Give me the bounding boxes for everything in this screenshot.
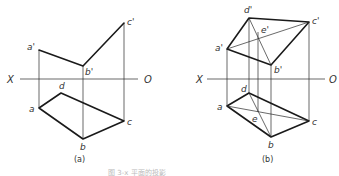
- figure-caption: 图 3-x 平面的投影: [108, 168, 166, 176]
- projection-diagram: X O a' b' c' a d c b (a) X O: [0, 0, 339, 176]
- label-a-prime: a': [27, 42, 35, 52]
- label-a: a: [29, 104, 35, 114]
- panel-b: X O d' c' e' a' b' d a e c b (b): [195, 5, 337, 164]
- axis-label-x-a: X: [6, 74, 15, 85]
- axis-label-o-b: O: [329, 74, 337, 85]
- label-d-b: d: [241, 84, 247, 94]
- front-view-edges-a: [39, 23, 124, 66]
- label-d-prime-b: d': [244, 5, 252, 15]
- label-e-prime-b: e': [261, 25, 269, 35]
- caption-a: (a): [74, 155, 85, 164]
- label-c: c: [127, 117, 132, 127]
- top-view-quad-a: [39, 93, 124, 139]
- label-c-prime-b: c': [312, 16, 319, 26]
- label-b-b: b: [268, 140, 274, 150]
- label-b: b: [80, 142, 86, 152]
- panel-a: X O a' b' c' a d c b (a): [6, 17, 152, 164]
- label-c-b: c: [312, 117, 317, 127]
- label-b-prime: b': [85, 67, 93, 77]
- top-diagonal-ac: [227, 106, 309, 121]
- label-a-prime-b: a': [215, 43, 223, 53]
- label-a-b: a: [217, 102, 223, 112]
- label-d: d: [59, 81, 65, 91]
- axis-label-x-b: X: [195, 74, 204, 85]
- axis-label-o-a: O: [144, 74, 152, 85]
- label-e-b: e: [252, 114, 258, 124]
- label-c-prime: c': [127, 17, 134, 27]
- label-b-prime-b: b': [274, 65, 282, 75]
- caption-b: (b): [262, 155, 273, 164]
